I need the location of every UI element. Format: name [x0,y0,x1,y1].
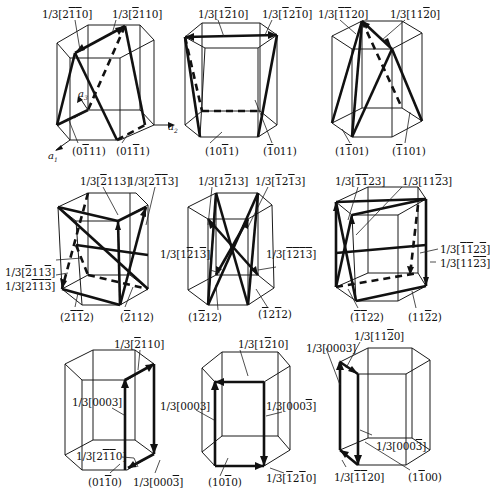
hex-prism-diagram [0,0,160,165]
plane-label: (2112) [60,311,94,323]
panel-pyramidal-1-c: 1/3[1120] 1/3[1120] (1101) (1101) [310,0,480,165]
plane-label: (1212) [258,308,292,320]
panel-pyramidal-2-c: 1/3[1123] 1/3[1123] 1/3[1123] 1/3[1123] … [310,165,480,330]
axis-a1-label: a1 [48,150,58,163]
vector-label: 1/3[1120] [354,330,404,342]
panel-pyramidal-2-a: 1/3[2113] 1/3[2113] 1/3[2113] 1/3[2113] … [0,165,160,330]
panel-prism-b: 1/3[1210] 1/3[0003] 1/3[0003] (1010) 1/3… [160,330,310,499]
plane-label: (1010) [208,476,242,488]
vector-label: 1/3[2110] [114,338,164,350]
plane-label: (2112) [120,311,154,323]
vector-label: 1/3[0003] [266,400,316,412]
hex-prism-diagram [160,0,310,165]
panel-pyramidal-1-b: 1/3[1210] 1/3[1210] (1011) (1011) [160,0,310,165]
vector-label: 1/3[1210] [266,472,316,484]
plane-label: (1101) [335,145,369,157]
hex-prism-diagram [0,165,160,330]
plane-label: (0111) [116,145,150,157]
panel-pyramidal-1-a: 1/3[2110] 1/3[2110] (0111) (0111) a3 a1 … [0,0,160,165]
vector-label: 1/3[1213] [266,248,316,260]
vector-label: 1/3[1213] [198,175,248,187]
plane-label: (1011) [205,145,239,157]
axis-a3-label: a3 [78,88,88,101]
vector-label: 1/3[1120] [318,8,368,20]
vector-label: 1/3[1123] [440,257,490,269]
vector-label: 1/3[1120] [334,471,384,483]
vector-label: 1/3[2110] [76,450,126,462]
vector-label: 1/3[0003] [306,342,356,354]
vector-label: 1/3[1210] [198,8,248,20]
vector-label: 1/3[2113] [80,175,130,187]
panel-prism-a: 1/3[2110] 1/3[0003] 1/3[2110] (0110) 1/3… [0,330,160,499]
panel-prism-c: 1/3[1120] 1/3[0003] 1/3[0003] 1/3[1120] … [310,330,480,499]
vector-label: 1/3[0003] [72,396,122,408]
vector-label: 1/3[1210] [262,8,312,20]
panel-pyramidal-2-b: 1/3[1213] 1/3[1213] 1/3[1213] 1/3[1213] … [160,165,310,330]
vector-label: 1/3[1123] [440,243,490,255]
plane-label: (1122) [350,311,384,323]
vector-label: 1/3[2110] [112,8,162,20]
vector-label: 1/3[1213] [255,175,305,187]
vector-label: 1/3[2113] [5,266,55,278]
plane-label: (1101) [392,145,426,157]
vector-label: 1/3[0003] [376,440,426,452]
plane-label: (1011) [263,145,297,157]
hex-prism-diagram [310,0,480,165]
plane-label: (0110) [88,476,122,488]
plane-label: (1122) [408,311,442,323]
vector-label: 1/3[2110] [42,8,92,20]
vector-label: 1/3[1213] [160,248,210,260]
vector-label: 1/3[1210] [238,338,288,350]
vector-label: 1/3[1123] [335,175,385,187]
plane-label: (1100) [408,471,442,483]
vector-label: 1/3[1120] [390,8,440,20]
vector-label: 1/3[0003] [160,400,210,412]
hex-prism-diagram [0,330,160,499]
vector-label: 1/3[1123] [402,175,452,187]
vector-label: 1/3[2113] [5,280,55,292]
plane-label: (0111) [72,145,106,157]
plane-label: (1212) [188,311,222,323]
